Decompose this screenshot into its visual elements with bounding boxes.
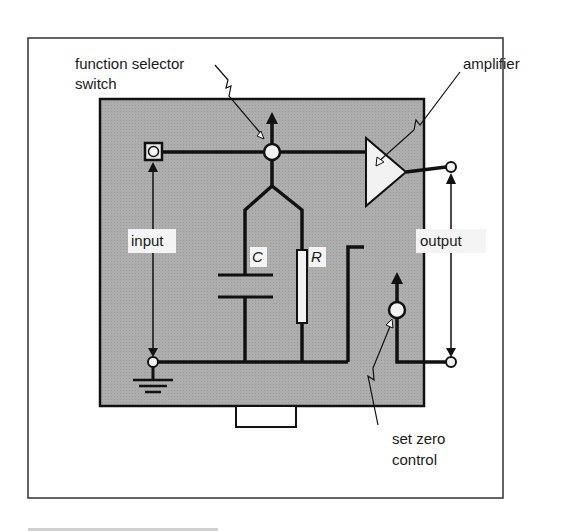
- resistor-label: R: [311, 248, 322, 265]
- amplifier-callout: amplifier: [463, 55, 520, 72]
- input-label: input: [131, 232, 164, 249]
- resistor-icon: [297, 250, 307, 323]
- set-zero-callout-line1: set zero: [392, 430, 445, 447]
- set-zero-callout-line2: control: [392, 451, 437, 468]
- set-zero-control-knob[interactable]: [389, 302, 405, 318]
- connector-tab: [236, 406, 296, 427]
- circuit-diagram: input output C R function selector switc…: [0, 0, 581, 531]
- output-label: output: [420, 232, 463, 249]
- function-selector-callout-line2: switch: [75, 75, 117, 92]
- capacitor-label: C: [252, 248, 263, 265]
- function-selector-switch[interactable]: [264, 144, 280, 160]
- output-terminal-bottom[interactable]: [446, 357, 456, 367]
- function-selector-callout-line1: function selector: [75, 55, 184, 72]
- input-terminal-icon[interactable]: [145, 143, 162, 160]
- output-terminal-top[interactable]: [446, 162, 456, 172]
- ground-node[interactable]: [148, 357, 158, 367]
